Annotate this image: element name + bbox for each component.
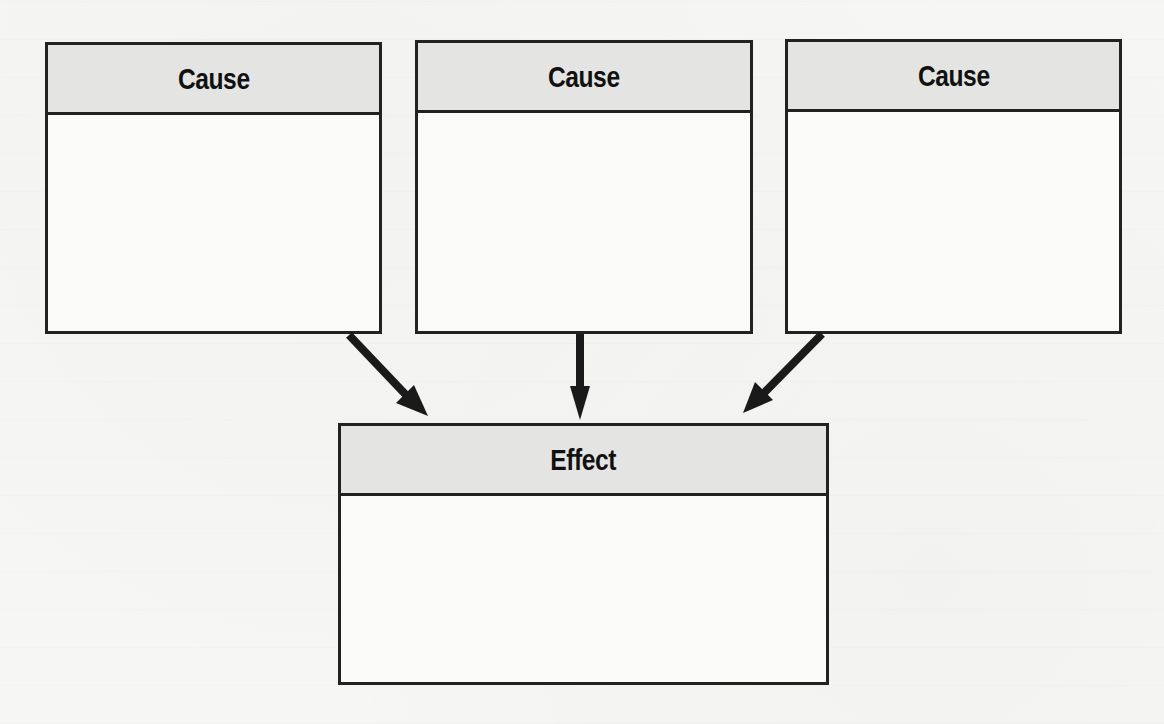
arrow-cause-1-to-effect bbox=[349, 335, 428, 416]
arrow-cause-2-to-effect bbox=[570, 334, 590, 420]
arrow-cause-3-to-effect bbox=[743, 334, 822, 413]
arrows-layer bbox=[0, 0, 1164, 724]
arrowhead-icon bbox=[570, 386, 590, 420]
